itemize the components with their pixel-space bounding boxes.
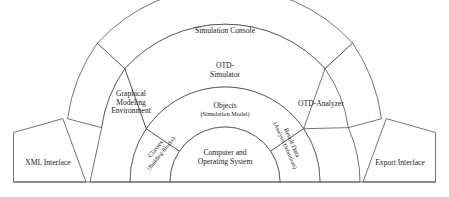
label-computer-operating-system: Computer and Operating System — [198, 149, 253, 166]
label-export-interface: Export Interface — [375, 159, 425, 168]
otd-analyzer-text: OTD-Analyzer — [298, 100, 344, 109]
xml-interface-text: XML Interface — [25, 159, 70, 168]
label-objects: Objects (Simulation Model) — [201, 102, 250, 117]
gme-line3: Environment — [111, 107, 151, 116]
label-graphical-modeling-environment: Graphical Modeling Environment — [111, 90, 151, 116]
label-otd-simulator: OTD- Simulator — [210, 62, 240, 79]
architecture-diagram: Simulation Console OTD- Simulator Graphi… — [0, 0, 449, 197]
label-otd-analyzer: OTD-Analyzer — [298, 100, 344, 109]
label-xml-interface: XML Interface — [25, 159, 70, 168]
otd-simulator-line2: Simulator — [210, 70, 240, 79]
label-simulation-console: Simulation Console — [195, 27, 255, 36]
core-line2: Operating System — [198, 157, 253, 166]
xml-interface-shape[interactable] — [14, 119, 87, 182]
objects-subtitle: (Simulation Model) — [201, 111, 250, 118]
export-interface-shape[interactable] — [363, 119, 436, 182]
simulation-console-text: Simulation Console — [195, 27, 255, 36]
export-interface-text: Export Interface — [375, 159, 425, 168]
